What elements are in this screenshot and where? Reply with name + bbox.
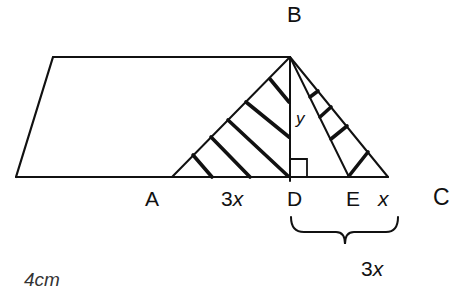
- label-B: B: [287, 4, 302, 26]
- hatching-BEC: [310, 91, 368, 176]
- label-E: E: [346, 188, 360, 209]
- right-angle-marker: [290, 159, 307, 177]
- label-D: D: [287, 188, 302, 209]
- partial-caption: 4cm: [24, 270, 60, 289]
- label-DC-length: 3x: [361, 258, 383, 279]
- label-EC-length: x: [378, 188, 389, 209]
- label-AD-length: 3x: [221, 188, 243, 209]
- label-C: C: [433, 186, 450, 209]
- parallelogram-outline: [16, 57, 290, 177]
- brace-DC: [291, 217, 398, 244]
- label-AD-text: 3x: [221, 187, 243, 210]
- label-DC-text: 3x: [361, 257, 383, 280]
- label-A: A: [145, 188, 159, 209]
- label-y: y: [296, 110, 305, 127]
- hatching-ABD: [193, 79, 289, 177]
